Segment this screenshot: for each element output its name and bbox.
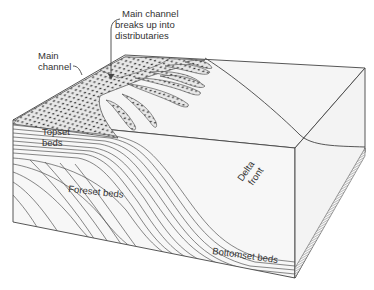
main-channel-pointer bbox=[73, 66, 82, 75]
label-distributaries: Main channel breaks up into distributari… bbox=[115, 8, 181, 41]
label-main-channel: Main channel bbox=[38, 50, 71, 72]
delta-block-diagram: Main channel breaks up into distributari… bbox=[0, 0, 374, 290]
